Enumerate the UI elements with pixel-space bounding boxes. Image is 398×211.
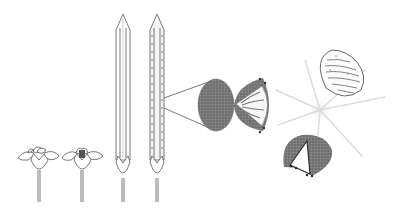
botanical-illustration — [0, 0, 398, 211]
split-grain — [283, 135, 332, 177]
striped-seed — [320, 50, 363, 96]
elongated-bud-dotted — [150, 14, 164, 202]
elongated-bud-plain — [116, 14, 130, 202]
flower-open — [18, 147, 59, 202]
half-opened-grain — [234, 78, 269, 133]
flower-dark-center — [62, 148, 103, 202]
magnified-grain — [198, 79, 234, 131]
